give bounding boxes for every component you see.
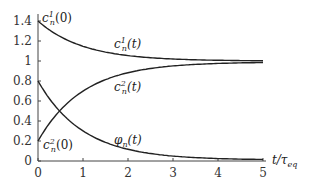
y-tick-label: 0.6 [13, 94, 32, 108]
x-tick-label: 5 [259, 166, 267, 180]
y-tick-label: 1 [24, 54, 32, 68]
x-tick-label: 0 [34, 166, 42, 180]
x-tick-label: 4 [214, 166, 222, 180]
label-c1-initial: c1n(0) [42, 10, 72, 27]
x-axis-label: t/τeq [272, 153, 297, 169]
x-tick-label: 2 [124, 166, 132, 180]
label-c1-t: c1n(t) [114, 36, 141, 53]
y-ticks: 00.20.40.60.811.21.4 [13, 14, 41, 168]
label-phi-t: φn(t) [114, 133, 142, 149]
y-tick-label: 0.8 [13, 74, 32, 88]
x-tick-label: 3 [169, 166, 177, 180]
x-tick-label: 1 [79, 166, 87, 180]
y-tick-label: 0.4 [13, 114, 32, 128]
y-tick-label: 0.2 [13, 134, 32, 148]
y-tick-label: 1.4 [13, 14, 32, 28]
label-c2-t: c2n(t) [114, 79, 141, 96]
label-c2-initial: c2n(0) [43, 137, 73, 154]
line-chart: 00.20.40.60.811.21.4 012345 c1n(0) c2n(0… [0, 0, 313, 186]
curve-c1 [38, 21, 263, 61]
curve-c2 [38, 63, 263, 142]
y-tick-label: 1.2 [13, 34, 32, 48]
y-tick-label: 0 [24, 154, 32, 168]
